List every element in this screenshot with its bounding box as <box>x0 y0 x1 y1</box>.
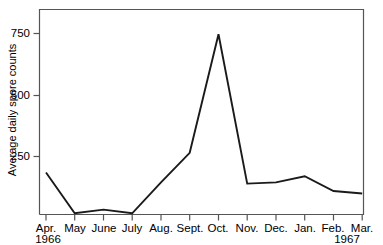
x-tick-label-sept: Sept. <box>177 222 204 234</box>
x-tick-label-nov: Nov. <box>236 222 259 234</box>
y-tick-label-250: 250 <box>0 150 30 162</box>
x-tick-label-oct: Oct. <box>207 222 228 234</box>
year-label-1966: 1966 <box>35 233 61 245</box>
x-tick-label-aug: Aug. <box>149 222 173 234</box>
x-tick-label-jan: Jan. <box>294 222 316 234</box>
y-tick-label-500: 500 <box>0 89 30 101</box>
y-tick-label-750: 750 <box>0 27 30 39</box>
plot-frame <box>40 10 364 215</box>
x-tick-label-dec: Dec. <box>264 222 288 234</box>
x-axis-ticks <box>46 215 362 221</box>
chart-plot-area <box>0 0 383 245</box>
y-axis-ticks <box>34 34 40 157</box>
y-axis-title: Average daily spore counts <box>6 23 18 198</box>
x-tick-label-july: July <box>122 222 142 234</box>
x-tick-label-may: May <box>64 222 86 234</box>
spore-count-chart-figure: Average daily spore counts 750 500 250 A… <box>0 0 383 245</box>
spore-count-series-line <box>46 34 362 213</box>
x-tick-label-june: June <box>92 222 117 234</box>
year-label-1967: 1967 <box>334 233 360 245</box>
